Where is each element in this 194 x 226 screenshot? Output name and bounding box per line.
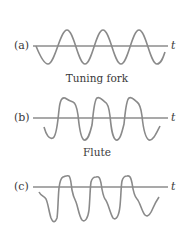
panel-b-graph xyxy=(33,97,168,140)
panel-b-flute-wave xyxy=(44,97,160,140)
panel-a-sine-wave xyxy=(36,30,165,64)
panel-c-graph xyxy=(33,176,168,222)
panel-c-complex-wave xyxy=(39,176,159,222)
panel-a-axis-label: t xyxy=(171,39,175,52)
panel-a-label: (a) xyxy=(14,40,29,52)
panel-a-graph xyxy=(33,30,168,64)
panel-a-caption: Tuning fork xyxy=(0,72,194,84)
panel-c-label: (c) xyxy=(14,181,29,193)
panel-b-label: (b) xyxy=(14,112,30,124)
panel-b-axis-label: t xyxy=(171,111,175,124)
panel-b-caption: Flute xyxy=(0,146,194,158)
panel-c-axis-label: t xyxy=(171,180,175,193)
